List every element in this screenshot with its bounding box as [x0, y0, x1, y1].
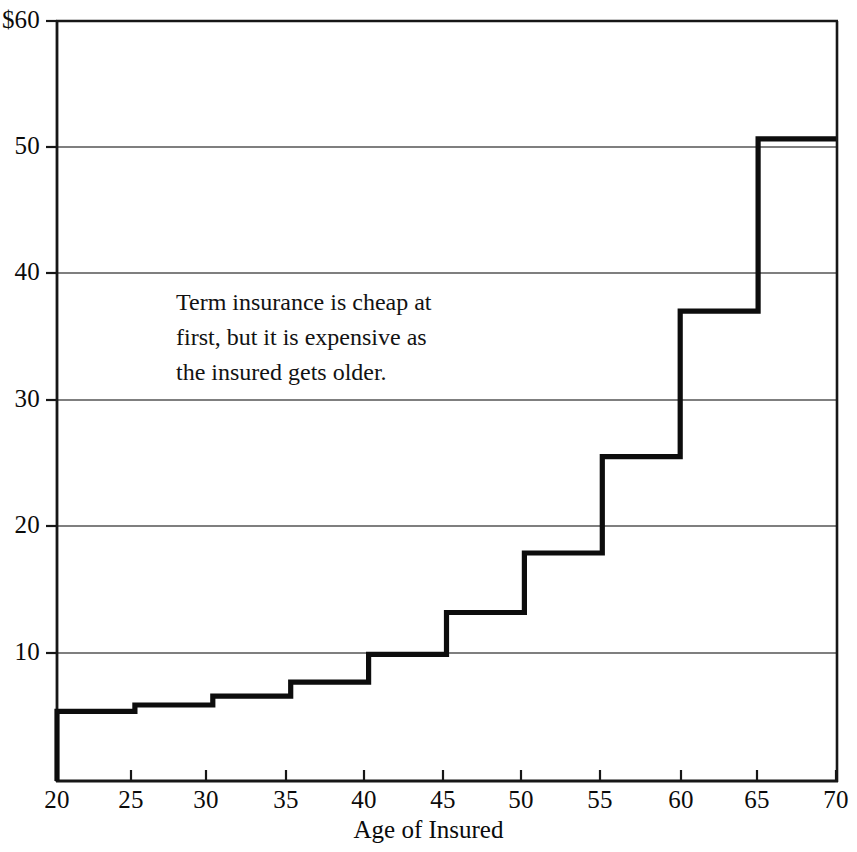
ytick-label-20: 20: [0, 511, 40, 539]
xtick-label-35: 35: [264, 786, 308, 814]
xtick-label-50: 50: [499, 786, 543, 814]
xtick-label-40: 40: [342, 786, 386, 814]
annotation-line-3: the insured gets older.: [176, 355, 536, 390]
annotation-line-2: first, but it is expensive as: [176, 320, 536, 355]
gridlines: [56, 147, 838, 653]
plot-frame: [56, 21, 838, 782]
ytick-label-50: 50: [0, 132, 40, 160]
ytick-label-10: 10: [0, 638, 40, 666]
xtick-label-25: 25: [109, 786, 153, 814]
premium-step-line: [57, 139, 836, 781]
ytick-label-30: 30: [0, 385, 40, 413]
ytick-label-40: 40: [0, 258, 40, 286]
x-tick-marks: [57, 770, 836, 781]
x-axis-title: Age of Insured: [0, 816, 857, 844]
xtick-label-65: 65: [735, 786, 779, 814]
chart-plot-area: [0, 0, 857, 852]
xtick-label-60: 60: [659, 786, 703, 814]
chart-annotation: Term insurance is cheap at first, but it…: [176, 285, 536, 389]
xtick-label-45: 45: [421, 786, 465, 814]
xtick-label-20: 20: [35, 786, 79, 814]
xtick-label-55: 55: [578, 786, 622, 814]
y-tick-marks: [46, 21, 57, 653]
term-insurance-step-chart: $60 50 40 30 20 10 20 25 30 35 40 45 50 …: [0, 0, 857, 852]
ytick-label-60: $60: [0, 6, 40, 34]
xtick-label-30: 30: [184, 786, 228, 814]
annotation-line-1: Term insurance is cheap at: [176, 285, 536, 320]
xtick-label-70: 70: [814, 786, 857, 814]
